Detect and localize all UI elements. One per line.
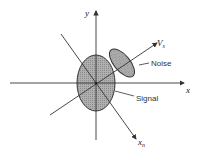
secondary-axis <box>61 34 136 139</box>
noise-leader-line <box>139 63 149 65</box>
x-axis-label: x <box>185 85 190 95</box>
noise-label: Noise <box>151 59 172 68</box>
signal-noise-diagram: y x Vs xn Noise Signal <box>0 0 200 154</box>
secondary-axis-label: xn <box>137 137 145 148</box>
signal-leader-line <box>115 91 134 96</box>
y-axis-label: y <box>84 8 89 18</box>
signal-label: Signal <box>136 94 158 103</box>
principal-axis-label: Vs <box>157 38 166 49</box>
origin-point <box>95 82 97 84</box>
